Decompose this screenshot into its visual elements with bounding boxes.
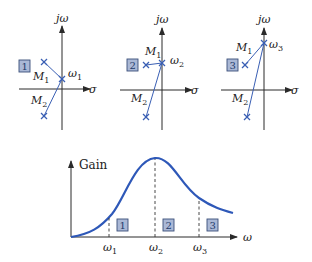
omega-label: ω2 <box>170 54 184 69</box>
omega-axis-label: ω <box>243 231 252 244</box>
tick-label-omega2: ω2 <box>149 241 163 256</box>
m1-label: M1 <box>235 41 252 56</box>
pole-marker-lower <box>41 113 47 119</box>
jw-axis-label: jω <box>153 13 168 26</box>
tick-label-omega1: ω1 <box>103 241 117 256</box>
m2-label: M2 <box>231 92 248 107</box>
case-box-1-label: 1 <box>22 61 28 72</box>
pole-zero-plot-3: jω σ 3 M1 ω3 M2 <box>221 13 299 130</box>
pole-marker-upper <box>41 59 47 65</box>
jw-axis-label: jω <box>255 13 270 26</box>
gain-case-box-2-label: 2 <box>166 220 172 231</box>
m1-label: M1 <box>144 45 161 60</box>
sigma-axis-label: σ <box>191 84 199 97</box>
pole-marker-lower <box>143 114 149 120</box>
gain-case-box-1-label: 1 <box>120 220 126 231</box>
pole-marker-upper <box>242 62 248 68</box>
m2-label: M2 <box>130 92 147 107</box>
figure: jω σ 1 M1 ω1 M2 jω σ 2 M1 ω2 M2 jω σ <box>0 0 312 262</box>
omega-label: ω1 <box>68 67 82 82</box>
omega-label: ω3 <box>269 38 283 53</box>
pole-zero-plot-1: jω σ 1 M1 ω1 M2 <box>19 12 97 130</box>
jw-axis-label: jω <box>53 12 68 25</box>
case-box-2-label: 2 <box>130 60 136 71</box>
tick-label-omega3: ω3 <box>193 241 207 256</box>
m1-label: M1 <box>32 70 49 85</box>
gain-axis-label: Gain <box>79 158 108 172</box>
sigma-axis-label: σ <box>291 84 299 97</box>
gain-case-box-3-label: 3 <box>210 220 216 231</box>
sigma-axis-label: σ <box>89 83 97 96</box>
gain-plot: Gain ω 1 2 3 ω1 ω2 ω3 <box>71 158 252 256</box>
case-box-3-label: 3 <box>230 60 236 71</box>
m2-label: M2 <box>30 94 47 109</box>
pole-zero-plot-2: jω σ 2 M1 ω2 M2 <box>120 13 199 130</box>
